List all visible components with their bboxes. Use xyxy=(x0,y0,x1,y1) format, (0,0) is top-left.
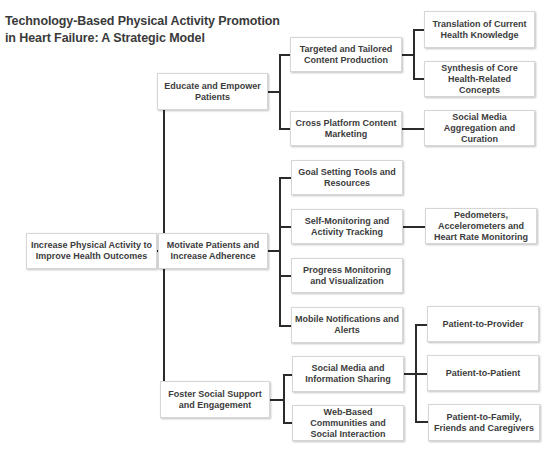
connector-family xyxy=(415,421,428,423)
connector-translation xyxy=(413,29,424,31)
node-pedometers: Pedometers, Accelerometers and Heart Rat… xyxy=(425,208,537,244)
node-social-media-sharing: Social Media and Information Sharing xyxy=(292,356,404,392)
connector-provider xyxy=(415,324,427,326)
node-web-based-label: Web-Based Communities and Social Interac… xyxy=(296,407,400,440)
connector-aggregation xyxy=(402,128,424,130)
node-patient-patient: Patient-to-Patient xyxy=(427,355,539,391)
connector-self-monitoring xyxy=(279,226,291,228)
node-aggregation: Social Media Aggregation and Curation xyxy=(424,110,535,146)
connector-social-media xyxy=(283,374,292,376)
connector-motivate-branch xyxy=(279,177,281,327)
node-self-monitoring: Self-Monitoring and Activity Tracking xyxy=(291,209,403,244)
node-educate-label: Educate and Empower Patients xyxy=(161,81,264,103)
node-synthesis: Synthesis of Core Health-Related Concept… xyxy=(424,61,535,97)
connector-targeted xyxy=(279,54,290,56)
node-aggregation-label: Social Media Aggregation and Curation xyxy=(428,112,531,145)
title-line-1: Technology-Based Physical Activity Promo… xyxy=(5,13,280,30)
connector-cross-platform xyxy=(279,128,290,130)
node-targeted-label: Targeted and Tailored Content Production xyxy=(294,44,398,66)
connector-pedometers xyxy=(403,226,425,228)
connector-social-media-branch xyxy=(415,324,417,423)
node-translation-label: Translation of Current Health Knowledge xyxy=(428,19,531,41)
connector-goal xyxy=(279,177,291,179)
node-foster: Foster Social Support and Engagement xyxy=(160,381,270,418)
node-root: Increase Physical Activity to Improve He… xyxy=(26,233,157,269)
node-goal-setting-label: Goal Setting Tools and Resources xyxy=(295,167,399,189)
node-patient-family: Patient-to-Family, Friends and Caregiver… xyxy=(428,404,540,441)
connector-targeted-branch xyxy=(413,29,415,80)
diagram-title: Technology-Based Physical Activity Promo… xyxy=(5,13,280,47)
connector-synthesis xyxy=(413,78,424,80)
connector-foster-out xyxy=(270,399,284,401)
title-line-2: in Heart Failure: A Strategic Model xyxy=(5,30,280,47)
node-synthesis-label: Synthesis of Core Health-Related Concept… xyxy=(428,63,531,96)
node-foster-label: Foster Social Support and Engagement xyxy=(164,389,266,411)
node-progress-label: Progress Monitoring and Visualization xyxy=(295,265,399,287)
node-cross-platform-label: Cross Platform Content Marketing xyxy=(294,118,398,140)
node-targeted: Targeted and Tailored Content Production xyxy=(290,37,402,72)
node-goal-setting: Goal Setting Tools and Resources xyxy=(291,160,403,195)
node-patient-patient-label: Patient-to-Patient xyxy=(446,368,521,379)
node-patient-family-label: Patient-to-Family, Friends and Caregiver… xyxy=(432,412,536,434)
node-social-media-sharing-label: Social Media and Information Sharing xyxy=(296,363,400,385)
node-translation: Translation of Current Health Knowledge xyxy=(424,11,535,48)
node-educate: Educate and Empower Patients xyxy=(157,73,268,110)
connector-foster-branch xyxy=(283,374,285,424)
connector-web-based xyxy=(283,422,292,424)
node-motivate-label: Motivate Patients and Increase Adherence xyxy=(162,240,264,262)
node-progress: Progress Monitoring and Visualization xyxy=(291,258,403,293)
node-mobile: Mobile Notifications and Alerts xyxy=(291,307,403,343)
node-web-based: Web-Based Communities and Social Interac… xyxy=(292,405,404,441)
connector-progress xyxy=(279,275,291,277)
node-cross-platform: Cross Platform Content Marketing xyxy=(290,111,402,146)
node-patient-provider-label: Patient-to-Provider xyxy=(442,319,523,330)
node-pedometers-label: Pedometers, Accelerometers and Heart Rat… xyxy=(429,210,533,243)
node-patient-provider: Patient-to-Provider xyxy=(427,306,539,342)
connector-educate-branch xyxy=(279,54,281,130)
node-mobile-label: Mobile Notifications and Alerts xyxy=(295,314,399,336)
node-root-label: Increase Physical Activity to Improve He… xyxy=(30,240,153,262)
connector-mobile xyxy=(279,325,291,327)
node-motivate: Motivate Patients and Increase Adherence xyxy=(158,233,268,269)
node-self-monitoring-label: Self-Monitoring and Activity Tracking xyxy=(295,216,399,238)
